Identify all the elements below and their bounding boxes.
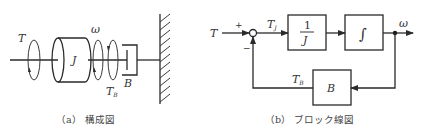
caption-b: （b） ブロック線図 bbox=[265, 114, 354, 125]
inertia-label: J bbox=[70, 54, 77, 67]
figure-a-structure-diagram: T J ω B TB bbox=[10, 14, 170, 125]
output-label: ω bbox=[399, 17, 408, 30]
feedback-path-right bbox=[351, 33, 395, 88]
svg-text:J: J bbox=[301, 34, 308, 47]
svg-text:1: 1 bbox=[304, 19, 311, 32]
fixed-wall bbox=[160, 14, 170, 104]
caption-a: （a） 構成図 bbox=[56, 114, 115, 125]
omega-label: ω bbox=[91, 23, 100, 36]
plus-sign: + bbox=[235, 20, 243, 30]
svg-text:B: B bbox=[326, 82, 335, 95]
svg-text:∫: ∫ bbox=[359, 25, 367, 43]
input-label: T bbox=[210, 27, 219, 40]
damper-torque-label: TB bbox=[106, 85, 118, 98]
torque-label: T bbox=[18, 32, 27, 45]
integrator-block: ∫ bbox=[345, 15, 383, 50]
summing-junction bbox=[250, 30, 257, 37]
minus-sign: − bbox=[243, 43, 251, 53]
figure-b-block-diagram: T + − TJ 1 J ∫ ω B TB （b） ブロック線 bbox=[210, 15, 413, 125]
inverse-inertia-block: 1 J bbox=[288, 15, 326, 50]
damping-feedback-block: B bbox=[313, 70, 351, 105]
tj-label: TJ bbox=[267, 18, 277, 32]
damper-label: B bbox=[123, 77, 132, 90]
tb-label: TB bbox=[292, 73, 304, 86]
